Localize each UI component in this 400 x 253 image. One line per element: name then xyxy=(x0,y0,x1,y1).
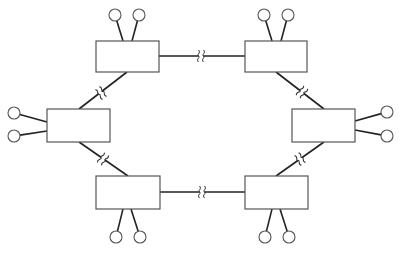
node-box-bottom-left xyxy=(96,176,160,209)
terminal-stub-right-2 xyxy=(355,130,381,135)
break-symbol-icon xyxy=(198,50,205,62)
terminal-stub-top-right-2 xyxy=(281,21,286,41)
terminal-circle-icon xyxy=(259,231,271,243)
terminal-stub-top-right-1 xyxy=(266,21,272,41)
terminal-stub-right-1 xyxy=(355,114,381,121)
break-symbol-icon xyxy=(296,85,309,99)
link-top-right-to-right xyxy=(276,72,324,109)
node-box-right xyxy=(292,109,355,142)
nodes-layer xyxy=(47,41,355,209)
terminal-stub-top-left-2 xyxy=(132,21,137,41)
link-top-left-to-left xyxy=(79,72,127,109)
terminal-circle-icon xyxy=(8,107,20,119)
break-symbol-icon xyxy=(199,186,206,198)
break-symbol-icon xyxy=(294,152,307,166)
link-bottom-left-to-bottom-right xyxy=(160,186,245,198)
break-symbol-icon xyxy=(97,152,109,166)
terminal-circle-icon xyxy=(134,231,146,243)
node-box-top-left xyxy=(96,41,159,72)
terminal-circle-icon xyxy=(109,9,121,21)
terminal-stub-bottom-right-2 xyxy=(280,209,287,231)
terminal-circle-icon xyxy=(381,130,393,142)
terminal-circle-icon xyxy=(8,130,20,142)
node-box-left xyxy=(47,109,110,142)
link-right-to-bottom-right xyxy=(276,142,324,176)
link-line xyxy=(79,72,127,109)
terminal-stub-bottom-left-1 xyxy=(117,209,123,231)
terminal-stub-left-2 xyxy=(20,131,47,135)
node-box-bottom-right xyxy=(245,176,308,209)
terminal-stub-bottom-left-2 xyxy=(131,209,138,231)
ring-network-diagram xyxy=(0,0,400,253)
terminal-circle-icon xyxy=(133,9,145,21)
link-top-left-to-top-right xyxy=(159,50,245,62)
link-left-to-bottom-left xyxy=(79,142,128,176)
terminal-circle-icon xyxy=(258,9,270,21)
terminal-stub-top-left-1 xyxy=(117,21,123,41)
terminal-circle-icon xyxy=(381,106,393,118)
node-box-top-right xyxy=(245,41,307,72)
terminal-circle-icon xyxy=(282,9,294,21)
terminal-stub-bottom-right-1 xyxy=(266,209,272,231)
terminal-circle-icon xyxy=(110,231,122,243)
terminal-circle-icon xyxy=(283,231,295,243)
terminal-stub-left-1 xyxy=(20,115,47,122)
